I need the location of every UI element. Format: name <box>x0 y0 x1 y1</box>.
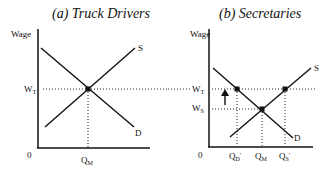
panel-b-origin: 0 <box>198 150 203 160</box>
panel-b-equilibrium-point <box>260 107 265 112</box>
panel-a-equilibrium-point <box>86 87 91 92</box>
panel-b-supply-label: S <box>314 63 319 73</box>
labor-market-diagram: (a) Truck Drivers Wage 0 S D WT QM (b) S… <box>0 0 333 172</box>
panel-a-origin: 0 <box>27 150 32 160</box>
panel-b-demand-label: D <box>294 133 301 143</box>
panel-secretaries: (b) Secretaries Wage 0 S D WT WS QD′ QM … <box>168 6 319 162</box>
panel-a-title: (a) Truck Drivers <box>52 6 151 22</box>
panel-b-supply-at-wt-point <box>283 87 288 92</box>
panel-b-wt-label: WT <box>192 84 205 95</box>
panel-b-ws-label: WS <box>192 103 204 114</box>
panel-a-qm-label: QM <box>81 155 94 166</box>
panel-b-y-label: Wage <box>190 29 210 39</box>
panel-b-supply-curve <box>230 68 311 137</box>
panel-a-y-label: Wage <box>11 29 31 39</box>
panel-b-title: (b) Secretaries <box>219 6 302 22</box>
up-arrow-icon <box>221 89 229 105</box>
panel-a-demand-label: D <box>135 128 142 138</box>
panel-a-supply-label: S <box>138 43 143 53</box>
panel-a-wt-label: WT <box>24 84 37 95</box>
panel-b-qs-label: QS′ <box>279 151 291 162</box>
panel-b-qm-label: QM <box>255 151 268 162</box>
panel-truck-drivers: (a) Truck Drivers Wage 0 S D WT QM <box>11 6 168 166</box>
panel-b-qd-label: QD′ <box>229 151 242 162</box>
panel-b-demand-at-wt-point <box>235 87 240 92</box>
